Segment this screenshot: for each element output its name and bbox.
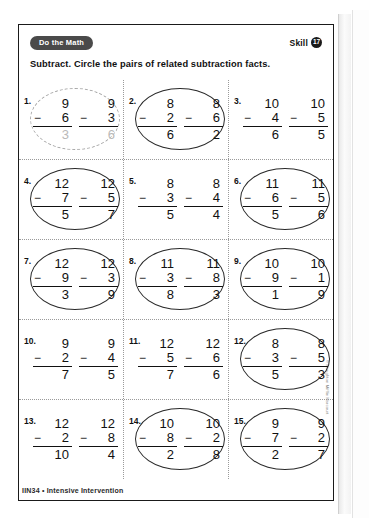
problem-number: 15.: [234, 416, 246, 426]
subtraction-fact: 11 − 3 8: [138, 257, 177, 302]
answer-value[interactable]: 9: [289, 287, 328, 302]
answer-value[interactable]: 7: [33, 367, 72, 382]
subtraction-fact: 9 − 4 5: [79, 337, 118, 382]
subtraction-line: − 9: [33, 271, 72, 287]
subtrahend: 8: [108, 431, 115, 445]
answer-value[interactable]: 3: [289, 367, 328, 382]
answer-value[interactable]: 8: [184, 447, 223, 462]
subtrahend: 6: [213, 111, 220, 125]
subtraction-fact: 8 − 2 6: [138, 97, 177, 142]
answer-value[interactable]: 6: [138, 127, 177, 142]
subtrahend: 8: [213, 271, 220, 285]
problem-row: 1. 9 − 6 3 9 − 3: [19, 80, 333, 159]
problem-cell-14[interactable]: 14. 10 − 8 2 10 −: [123, 400, 228, 479]
answer-value[interactable]: 2: [184, 127, 223, 142]
problem-number: 6.: [234, 176, 241, 186]
subtraction-line: − 9: [243, 271, 282, 287]
problem-cell-8[interactable]: 8. 11 − 3 8 11 − 8: [123, 240, 228, 319]
subtraction-fact: 10 − 8 2: [138, 417, 177, 462]
problem-cell-12[interactable]: 12. 8 − 3 5 8 − 5: [228, 320, 333, 399]
minuend: 11: [243, 177, 282, 191]
answer-value[interactable]: 4: [184, 207, 223, 222]
subtrahend: 7: [62, 191, 69, 205]
minuend: 9: [79, 97, 118, 111]
answer-value[interactable]: 3: [33, 127, 72, 142]
answer-value[interactable]: 7: [289, 447, 328, 462]
answer-value[interactable]: 2: [138, 447, 177, 462]
minus-operator: −: [139, 352, 146, 365]
problem-cell-4[interactable]: 4. 12 − 7 5 12 − 5: [19, 160, 123, 239]
answer-value[interactable]: 1: [243, 287, 282, 302]
minus-operator: −: [139, 272, 146, 285]
answer-value[interactable]: 2: [243, 447, 282, 462]
answer-value[interactable]: 3: [33, 287, 72, 302]
minuend: 9: [33, 97, 72, 111]
minuend: 12: [138, 337, 177, 351]
problem-cell-1[interactable]: 1. 9 − 6 3 9 − 3: [19, 80, 123, 159]
problems-grid: 1. 9 − 6 3 9 − 3: [19, 80, 333, 475]
minus-operator: −: [244, 272, 251, 285]
answer-value[interactable]: 7: [138, 367, 177, 382]
answer-value[interactable]: 5: [289, 127, 328, 142]
minuend: 11: [184, 257, 223, 271]
problem-cell-5[interactable]: 5. 8 − 3 5 8 − 4: [123, 160, 228, 239]
problem-cell-7[interactable]: 7. 12 − 9 3 12 − 3: [19, 240, 123, 319]
minus-operator: −: [244, 112, 251, 125]
subtraction-line: − 2: [184, 431, 223, 447]
subtraction-line: − 7: [33, 191, 72, 207]
minus-operator: −: [290, 272, 297, 285]
answer-value[interactable]: 8: [138, 287, 177, 302]
fact-pair: 10 − 9 1 10 − 1 9: [229, 240, 333, 319]
answer-value[interactable]: 9: [79, 287, 118, 302]
answer-value[interactable]: 10: [33, 447, 72, 462]
minuend: 12: [33, 257, 72, 271]
answer-value[interactable]: 6: [184, 367, 223, 382]
subtraction-line: − 6: [184, 351, 223, 367]
minus-operator: −: [139, 112, 146, 125]
minus-operator: −: [34, 112, 41, 125]
problem-cell-6[interactable]: 6. 11 − 6 5 11 − 5: [228, 160, 333, 239]
problem-number: 11.: [129, 336, 140, 346]
answer-value[interactable]: 6: [289, 207, 328, 222]
fact-pair: 11 − 6 5 11 − 5 6: [229, 160, 333, 239]
fact-pair: 12 − 7 5 12 − 5 7: [19, 160, 123, 239]
answer-value[interactable]: 5: [79, 367, 118, 382]
subtraction-line: − 2: [289, 431, 328, 447]
problem-cell-9[interactable]: 9. 10 − 9 1 10 − 1: [228, 240, 333, 319]
answer-value[interactable]: 3: [184, 287, 223, 302]
minuend: 11: [289, 177, 328, 191]
subtrahend: 3: [167, 191, 174, 205]
subtrahend: 5: [318, 191, 325, 205]
subtraction-line: − 3: [138, 191, 177, 207]
minus-operator: −: [290, 112, 297, 125]
fact-pair: 9 − 7 2 9 − 2 7: [229, 400, 333, 479]
minuend: 10: [289, 257, 328, 271]
answer-value[interactable]: 5: [138, 207, 177, 222]
answer-value[interactable]: 4: [79, 447, 118, 462]
subtrahend: 9: [272, 271, 279, 285]
minuend: 9: [33, 337, 72, 351]
minuend: 12: [79, 417, 118, 431]
subtraction-line: − 1: [289, 271, 328, 287]
problem-cell-15[interactable]: 15. 9 − 7 2 9 − 2: [228, 400, 333, 479]
problem-cell-3[interactable]: 3. 10 − 4 6 10 − 5: [228, 80, 333, 159]
answer-value[interactable]: 6: [243, 127, 282, 142]
problem-cell-13[interactable]: 13. 12 − 2 10 12 − 8: [19, 400, 123, 479]
subtraction-line: − 4: [79, 351, 118, 367]
answer-value[interactable]: 6: [79, 127, 118, 142]
minus-operator: −: [34, 192, 41, 205]
minuend: 10: [243, 97, 282, 111]
answer-value[interactable]: 5: [243, 207, 282, 222]
minus-operator: −: [80, 272, 87, 285]
problem-cell-2[interactable]: 2. 8 − 2 6 8 − 6: [123, 80, 228, 159]
answer-value[interactable]: 5: [243, 367, 282, 382]
subtraction-fact: 11 − 6 5: [243, 177, 282, 222]
minus-operator: −: [80, 432, 87, 445]
problem-cell-10[interactable]: 10. 9 − 2 7 9 − 4: [19, 320, 123, 399]
subtrahend: 2: [62, 431, 69, 445]
minus-operator: −: [80, 112, 87, 125]
answer-value[interactable]: 5: [33, 207, 72, 222]
minuend: 10: [243, 257, 282, 271]
answer-value[interactable]: 7: [79, 207, 118, 222]
problem-cell-11[interactable]: 11. 12 − 5 7 12 − 6: [123, 320, 228, 399]
